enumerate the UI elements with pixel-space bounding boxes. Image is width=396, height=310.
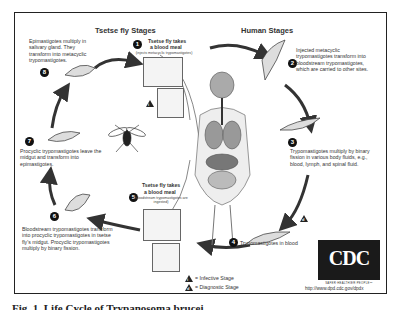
stage-5-title: Tsetse fly takes bbox=[142, 182, 180, 188]
stage-1-bite-image bbox=[143, 57, 183, 87]
stage-2-text: Injected metacyclic trypomastigotes tran… bbox=[296, 47, 374, 72]
diagnostic-stage-icon: d bbox=[300, 215, 308, 222]
stage-1-note: (injects metacyclic trypomastigotes) bbox=[128, 51, 200, 55]
stage-7-text: Procyclic trypomastigotes leave the midg… bbox=[20, 148, 108, 167]
stage-5-parasite-image bbox=[152, 243, 180, 272]
stage-3-number: 3 bbox=[288, 138, 297, 147]
stage-8-number: 8 bbox=[40, 68, 49, 77]
tsetse-fly-stages-title: Tsetse fly Stages bbox=[95, 26, 156, 35]
legend-diagnostic-label: = Diagnostic Stage bbox=[195, 284, 239, 290]
stage-1-title2: a blood meal bbox=[150, 44, 182, 50]
parasite-illustrations bbox=[48, 40, 320, 245]
stage-1-number: 1 bbox=[133, 40, 142, 49]
figure-caption: Fig. 1. Life Cycle of Trypanosoma brucei bbox=[12, 302, 203, 310]
stage-6-text: Bloodstream trypomastigotes transform in… bbox=[22, 226, 117, 251]
infective-stage-icon: i bbox=[146, 100, 154, 107]
stage-1-parasite-image bbox=[157, 88, 184, 118]
stage-5-note: (bloodstream trypomastigotes are ingeste… bbox=[130, 196, 192, 204]
stage-5-title2: a blood meal bbox=[144, 189, 176, 195]
legend-infective-icon: i bbox=[185, 275, 193, 282]
stage-6-number: 6 bbox=[50, 212, 59, 221]
stage-7-number: 7 bbox=[25, 137, 34, 146]
tsetse-fly-illustration bbox=[108, 125, 147, 152]
human-body bbox=[195, 72, 250, 245]
cdc-url: http://www.dpd.cdc.gov/dpdx bbox=[305, 286, 363, 291]
stage-8-text: Epimastigotes multiply in salivary gland… bbox=[29, 38, 93, 63]
stage-4-number: 4 bbox=[229, 238, 238, 247]
legend-infective-label: = Infective Stage bbox=[195, 275, 234, 281]
stage-5-bite-image bbox=[143, 209, 181, 241]
human-stages-title: Human Stages bbox=[241, 26, 293, 35]
legend-diagnostic-icon: d bbox=[185, 284, 193, 291]
stage-4-text: Trypomastigotes in blood bbox=[240, 240, 298, 246]
stage-3-text: Trypomastigotes multiply by binary fissi… bbox=[290, 148, 374, 167]
cdc-logo: CDC bbox=[318, 240, 380, 280]
cdc-tagline: SAFER·HEALTHIER·PEOPLE™ bbox=[318, 281, 380, 285]
